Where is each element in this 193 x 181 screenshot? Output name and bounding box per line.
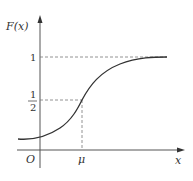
x-axis-label: x: [175, 154, 182, 167]
half-numerator: 1: [30, 89, 36, 100]
mu-label: μ: [78, 153, 85, 166]
x-axis-arrow-icon: [177, 148, 185, 153]
one-tick-label: 1: [30, 52, 36, 63]
origin-label: O: [26, 153, 35, 166]
y-axis-label: F(x): [5, 20, 28, 33]
y-axis-arrow-icon: [38, 15, 43, 23]
cdf-diagram: F(x) 1 1 2 O μ x: [0, 0, 193, 181]
half-denominator: 2: [30, 102, 36, 113]
